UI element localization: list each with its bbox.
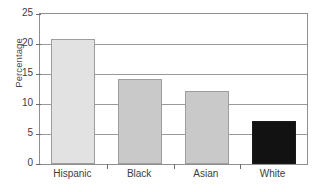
bar-hispanic xyxy=(51,39,95,164)
x-axis-tick-label-black: Black xyxy=(127,168,151,180)
plot-area xyxy=(39,13,308,165)
x-axis-tick-label-white: White xyxy=(260,168,286,180)
y-axis-tick-mark xyxy=(36,14,41,15)
bar-white xyxy=(252,121,296,164)
y-axis-tick-mark xyxy=(36,104,41,105)
bar-black xyxy=(118,79,162,164)
y-axis-tick-label: 20 xyxy=(13,38,33,48)
x-axis-tick-label-hispanic: Hispanic xyxy=(53,168,91,180)
y-axis-tick-labels: 0510152025 xyxy=(11,0,33,192)
x-axis-tick-label-asian: Asian xyxy=(193,168,218,180)
y-axis-tick-mark xyxy=(36,134,41,135)
y-axis-tick-label: 10 xyxy=(13,98,33,108)
y-axis-tick-label: 15 xyxy=(13,68,33,78)
y-axis-tick-mark xyxy=(36,164,41,165)
y-axis-tick-label: 25 xyxy=(13,8,33,18)
y-axis-tick-mark xyxy=(36,44,41,45)
x-axis-tick-labels: HispanicBlackAsianWhite xyxy=(39,168,308,188)
bar-asian xyxy=(185,91,229,164)
y-axis-tick-label: 0 xyxy=(13,158,33,168)
bar-chart: Percentage 0510152025 HispanicBlackAsian… xyxy=(0,0,324,192)
y-axis-tick-label: 5 xyxy=(13,128,33,138)
y-axis-tick-mark xyxy=(36,74,41,75)
